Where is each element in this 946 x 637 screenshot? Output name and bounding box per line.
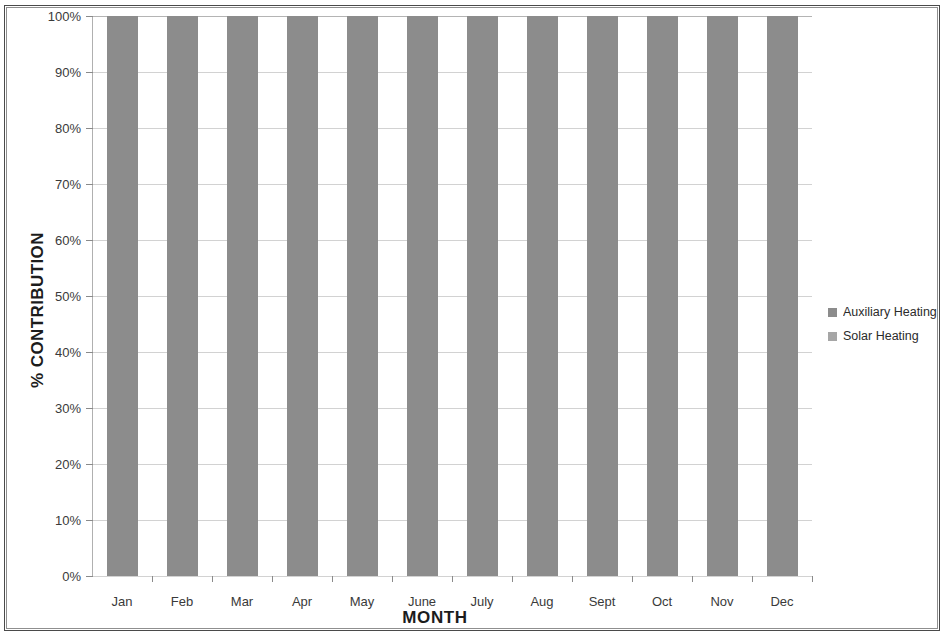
gridline bbox=[92, 464, 812, 465]
x-axis-tick-label: Mar bbox=[231, 594, 253, 609]
y-axis-title: % CONTRIBUTION bbox=[28, 200, 48, 420]
legend-label-solar-heating: Solar Heating bbox=[843, 329, 919, 343]
x-axis-tick bbox=[392, 576, 393, 582]
bar-segment-auxiliary-heating[interactable] bbox=[647, 16, 678, 576]
x-axis-tick bbox=[212, 576, 213, 582]
bar-segment-auxiliary-heating[interactable] bbox=[467, 16, 498, 576]
x-axis-tick bbox=[632, 576, 633, 582]
x-axis-tick bbox=[692, 576, 693, 582]
y-axis-tick bbox=[86, 72, 93, 73]
y-axis-tick-label: 10% bbox=[55, 513, 81, 528]
bar-segment-auxiliary-heating[interactable] bbox=[107, 16, 138, 576]
bar-segment-auxiliary-heating[interactable] bbox=[347, 16, 378, 576]
y-axis-tick bbox=[86, 408, 93, 409]
y-axis-tick-label: 20% bbox=[55, 457, 81, 472]
plot-area: 0%10%20%30%40%50%60%70%80%90%100%JanFebM… bbox=[92, 16, 812, 576]
x-axis-tick-label: Dec bbox=[770, 594, 793, 609]
bar-segment-auxiliary-heating[interactable] bbox=[167, 16, 198, 576]
y-axis-tick bbox=[86, 184, 93, 185]
x-axis-tick-label: Apr bbox=[292, 594, 312, 609]
x-axis-tick bbox=[572, 576, 573, 582]
y-axis-tick-label: 80% bbox=[55, 121, 81, 136]
y-axis-tick bbox=[86, 352, 93, 353]
y-axis-tick-label: 90% bbox=[55, 65, 81, 80]
bar-segment-auxiliary-heating[interactable] bbox=[287, 16, 318, 576]
bar-segment-auxiliary-heating[interactable] bbox=[227, 16, 258, 576]
y-axis-tick bbox=[86, 128, 93, 129]
x-axis-tick-label: Sept bbox=[589, 594, 616, 609]
x-axis-tick bbox=[452, 576, 453, 582]
y-axis-tick bbox=[86, 240, 93, 241]
gridline bbox=[92, 72, 812, 73]
bar-segment-auxiliary-heating[interactable] bbox=[767, 16, 798, 576]
gridline bbox=[92, 296, 812, 297]
y-axis-tick-label: 30% bbox=[55, 401, 81, 416]
gridline bbox=[92, 520, 812, 521]
gridline bbox=[92, 184, 812, 185]
y-axis-tick-label: 60% bbox=[55, 233, 81, 248]
gridline bbox=[92, 352, 812, 353]
x-axis-tick-label: Oct bbox=[652, 594, 672, 609]
bar-segment-auxiliary-heating[interactable] bbox=[407, 16, 438, 576]
gridline bbox=[92, 128, 812, 129]
chart-legend: Auxiliary Heating Solar Heating bbox=[828, 300, 946, 348]
y-axis-tick-label: 100% bbox=[48, 9, 81, 24]
y-axis-tick bbox=[86, 16, 93, 17]
x-axis-tick-label: June bbox=[408, 594, 436, 609]
x-axis-tick-label: Feb bbox=[171, 594, 193, 609]
legend-label-auxiliary-heating: Auxiliary Heating bbox=[843, 305, 937, 319]
y-axis-tick bbox=[86, 576, 93, 577]
legend-swatch-icon-auxiliary-heating bbox=[828, 308, 837, 317]
y-axis-tick-label: 40% bbox=[55, 345, 81, 360]
x-axis-tick bbox=[812, 576, 813, 582]
stacked-bar-chart: % CONTRIBUTION MONTH 0%10%20%30%40%50%60… bbox=[0, 0, 946, 637]
x-axis-tick bbox=[752, 576, 753, 582]
x-axis-title: MONTH bbox=[0, 608, 870, 628]
y-axis-tick-label: 70% bbox=[55, 177, 81, 192]
y-axis-tick-label: 50% bbox=[55, 289, 81, 304]
x-axis-tick-label: Jan bbox=[112, 594, 133, 609]
x-axis-tick-label: July bbox=[470, 594, 493, 609]
gridline bbox=[92, 408, 812, 409]
bar-segment-auxiliary-heating[interactable] bbox=[527, 16, 558, 576]
gridline bbox=[92, 16, 812, 17]
legend-item-solar-heating[interactable]: Solar Heating bbox=[828, 324, 946, 348]
gridline bbox=[92, 240, 812, 241]
x-axis-tick bbox=[332, 576, 333, 582]
y-axis-tick bbox=[86, 296, 93, 297]
bar-segment-auxiliary-heating[interactable] bbox=[707, 16, 738, 576]
bar-segment-auxiliary-heating[interactable] bbox=[587, 16, 618, 576]
x-axis-tick bbox=[272, 576, 273, 582]
y-axis-tick bbox=[86, 520, 93, 521]
x-axis-tick bbox=[512, 576, 513, 582]
y-axis-tick-label: 0% bbox=[62, 569, 81, 584]
x-axis-tick-label: Aug bbox=[530, 594, 553, 609]
y-axis-tick bbox=[86, 464, 93, 465]
x-axis-tick bbox=[152, 576, 153, 582]
legend-item-auxiliary-heating[interactable]: Auxiliary Heating bbox=[828, 300, 946, 324]
chart-page: % CONTRIBUTION MONTH 0%10%20%30%40%50%60… bbox=[0, 0, 946, 637]
legend-swatch-icon-solar-heating bbox=[828, 332, 837, 341]
x-axis-tick-label: May bbox=[350, 594, 375, 609]
x-axis-tick-label: Nov bbox=[710, 594, 733, 609]
